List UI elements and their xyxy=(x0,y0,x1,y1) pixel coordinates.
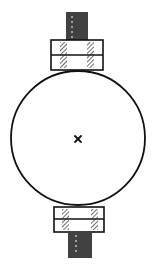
bottom-bolt xyxy=(68,232,92,258)
top-bolt xyxy=(66,12,88,41)
bottom-clamp-block xyxy=(54,207,104,232)
diagram-figure xyxy=(0,0,154,270)
top-clamp-block xyxy=(51,40,103,70)
